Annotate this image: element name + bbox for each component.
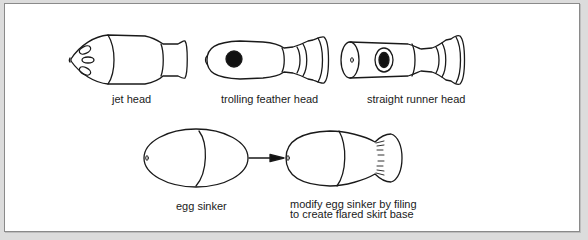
jet-head-drawing [69, 35, 187, 84]
trolling-feather-head-label: trolling feather head [221, 93, 318, 105]
transform-arrow [249, 155, 284, 162]
straight-runner-head-label: straight runner head [367, 93, 465, 105]
modified-egg-sinker-label-line2: to create flared skirt base [290, 208, 414, 220]
trolling-feather-head-drawing [206, 37, 329, 84]
modified-egg-sinker-drawing [286, 131, 402, 186]
jet-head-label: jet head [112, 93, 151, 105]
straight-runner-head-drawing [341, 36, 465, 85]
egg-sinker-label: egg sinker [176, 200, 227, 212]
egg-sinker-drawing [144, 129, 248, 187]
